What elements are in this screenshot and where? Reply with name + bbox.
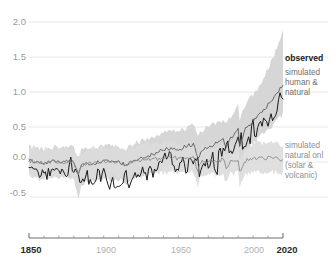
legend-label-natural-only-line2: natural onl [285,151,323,160]
x-tick-1850: 1850 [20,244,41,255]
legend-label-natural-only-line3: (solar & [285,161,314,170]
x-tick-1900: 1900 [96,245,116,255]
legend-label-human-natural-line1: simulated [285,68,320,77]
y-axis-tick-labels: 2.0 1.5 1.0 0.5 0.0 -0.5 [10,16,26,198]
uncertainty-bands [29,30,283,199]
y-tick-0_0: 0.0 [13,151,26,162]
climate-attribution-chart: 2.0 1.5 1.0 0.5 0.0 -0.5 1850 1900 1950 … [0,0,334,268]
y-tick-1_0: 1.0 [13,86,26,97]
x-tick-1950: 1950 [171,245,191,255]
legend-label-human-natural-line2: human & [285,78,318,87]
y-tick-neg0_5: -0.5 [10,187,26,198]
chart-svg: 2.0 1.5 1.0 0.5 0.0 -0.5 1850 1900 1950 … [0,0,334,268]
legend-label-natural-only-line1: simulated [285,141,320,150]
y-tick-1_5: 1.5 [13,51,26,62]
y-tick-2_0: 2.0 [13,16,26,27]
chart-legend: observed simulated human & natural simul… [285,53,323,180]
y-tick-0_5: 0.5 [13,121,26,132]
legend-label-observed: observed [285,53,323,63]
x-axis-tick-labels: 1850 1900 1950 2000 2020 [20,244,297,255]
band-simulated-natural-only [29,140,283,196]
legend-label-human-natural-line3: natural [285,88,310,97]
x-axis [29,233,283,238]
legend-label-natural-only-line4: volcanic) [285,171,318,180]
x-tick-2020: 2020 [276,244,297,255]
x-tick-2000: 2000 [244,245,264,255]
